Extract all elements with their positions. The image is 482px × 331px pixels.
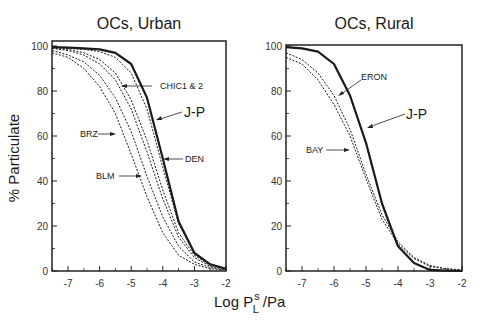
x-tick-label: -4 (394, 278, 403, 289)
left-chart: 020406080100 -7-6-5-4-3-2 CHIC1 & 2 J-P … (31, 41, 231, 289)
annotation-jp-right: J-P (367, 106, 427, 128)
annotation-den: DEN (163, 154, 204, 164)
svg-text:ERON: ERON (361, 72, 387, 82)
y-tick-label: 0 (42, 266, 48, 277)
svg-text:BRZ: BRZ (80, 129, 99, 139)
left-x-axis: -7-6-5-4-3-2 (52, 266, 231, 289)
x-tick-label: -3 (426, 278, 435, 289)
annotation-chic: CHIC1 & 2 (121, 81, 203, 91)
x-tick-label: -2 (458, 278, 467, 289)
svg-text:BLM: BLM (96, 171, 115, 181)
annotation-blm: BLM (96, 171, 142, 181)
curve-eron (286, 53, 462, 270)
y-tick-label: 20 (271, 221, 283, 232)
y-tick-label: 20 (37, 221, 49, 232)
y-tick-label: 80 (271, 86, 283, 97)
left-chart-title: OCs, Urban (97, 15, 181, 32)
y-tick-label: 40 (37, 176, 49, 187)
svg-text:DEN: DEN (185, 154, 204, 164)
y-tick-label: 100 (31, 41, 48, 52)
x-axis-label: Log PsL/Pa (214, 290, 286, 315)
x-tick-label: -6 (330, 278, 339, 289)
x-tick-label: -2 (222, 278, 231, 289)
right-chart-title: OCs, Rural (334, 15, 413, 32)
x-tick-label: -7 (298, 278, 307, 289)
x-tick-label: -6 (95, 278, 104, 289)
y-tick-label: 40 (271, 176, 283, 187)
y-tick-label: 0 (276, 266, 282, 277)
x-tick-label: -5 (127, 278, 136, 289)
y-tick-label: 60 (271, 131, 283, 142)
annotation-jp-left: J-P (156, 104, 205, 120)
right-y-axis: 020406080100 (265, 41, 291, 277)
y-tick-label: 60 (37, 131, 49, 142)
y-axis-label: % Particulate (5, 114, 22, 202)
svg-text:CHIC1 & 2: CHIC1 & 2 (160, 81, 203, 91)
y-tick-label: 100 (265, 41, 282, 52)
x-tick-label: -3 (190, 278, 199, 289)
chart-canvas: OCs, Urban OCs, Rural % Particulate Log … (0, 0, 482, 331)
right-chart: 020406080100 -7-6-5-4-3-2 ERON J-P BAY (265, 41, 467, 289)
x-tick-label: -4 (158, 278, 167, 289)
x-tick-label: -7 (64, 278, 73, 289)
left-y-axis: 020406080100 (31, 41, 57, 277)
svg-text:J-P: J-P (406, 106, 427, 122)
svg-text:BAY: BAY (306, 145, 323, 155)
x-tick-label: -5 (362, 278, 371, 289)
annotation-bay: BAY (306, 145, 350, 155)
curve-bay (286, 57, 462, 270)
annotation-brz: BRZ (80, 129, 116, 139)
svg-text:J-P: J-P (184, 104, 205, 120)
y-tick-label: 80 (37, 86, 49, 97)
